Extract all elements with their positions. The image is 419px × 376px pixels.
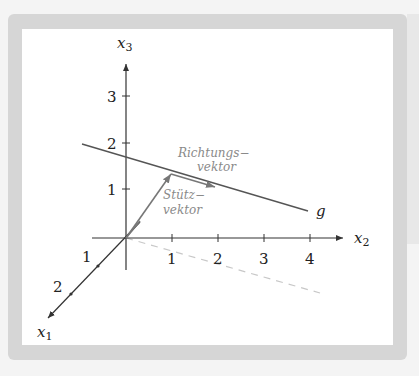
x2-tick-1: 1 <box>167 250 177 268</box>
x3-tick-2: 2 <box>107 135 117 153</box>
x2-tick-2: 2 <box>213 250 223 268</box>
x2-tick-4: 4 <box>305 250 315 268</box>
x3-tick-1: 1 <box>107 181 117 199</box>
x3-tick-3: 3 <box>107 88 117 106</box>
line-g-label: g <box>316 202 326 220</box>
x1-axis-label: x1 <box>37 323 52 343</box>
support-vector: Stütz− vektor <box>126 174 205 238</box>
direction-vector-label-line2: vektor <box>197 160 237 174</box>
support-vector-label-line2: vektor <box>163 203 203 217</box>
direction-vector-label-line1: Richtungs− <box>177 146 250 160</box>
x3-axis-label: x3 <box>117 34 132 54</box>
direction-vector: Richtungs− vektor <box>171 146 250 187</box>
x2-tick-3: 3 <box>259 250 269 268</box>
coordinate-diagram: 1 2 3 x3 1 2 3 4 x2 1 2 x1 g <box>0 0 419 376</box>
dashed-projection-line <box>126 238 320 293</box>
x1-tick-2: 2 <box>53 278 63 296</box>
x2-axis-label: x2 <box>354 229 369 249</box>
x1-axis: 1 2 x1 <box>37 222 140 343</box>
x2-axis: 1 2 3 4 x2 <box>92 229 369 268</box>
x1-tick-1: 1 <box>82 248 92 266</box>
support-vector-label-line1: Stütz− <box>163 188 205 202</box>
